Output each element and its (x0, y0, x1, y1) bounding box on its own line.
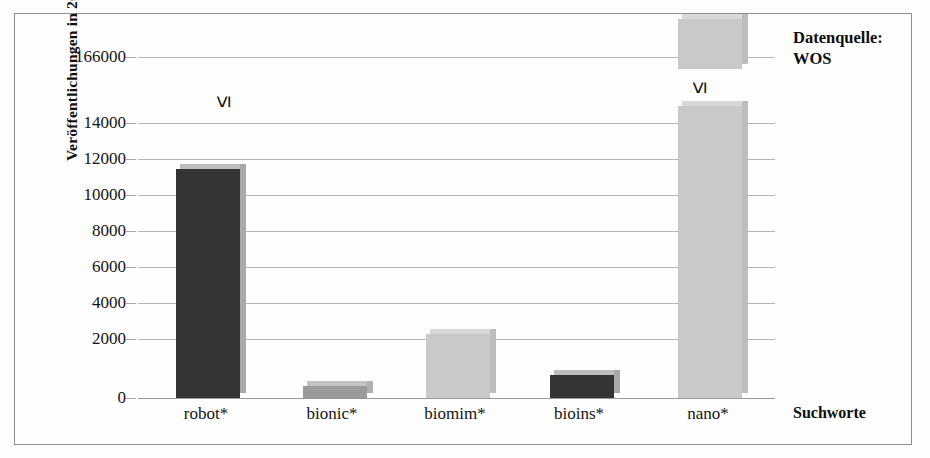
x-axis-title: Suchworte (793, 404, 866, 422)
bar-robot (176, 169, 240, 398)
tick-0 (126, 398, 136, 399)
bar-side-face (367, 381, 373, 393)
bar-bioins (550, 375, 614, 398)
bar-side-face (742, 101, 748, 393)
bar-front-face (678, 106, 742, 398)
tick-8000 (126, 231, 136, 232)
tick-12000 (126, 159, 136, 160)
bar-side-face (490, 329, 496, 393)
xtick-label-biomim: biomim* (395, 404, 515, 424)
bar-front-face (426, 334, 490, 398)
ytick-label-8000: 8000 (6, 222, 126, 239)
bar-nano-upper-segment (678, 19, 742, 69)
xtick-label-nano: nano* (648, 404, 768, 424)
plot-area: 166000 ≤ 14000 12000 10000 8000 6000 400… (138, 24, 775, 399)
bar-break-symbol: ≤ (686, 82, 712, 94)
ytick-label-6000: 6000 (6, 258, 126, 275)
xtick-label-robot: robot* (146, 404, 266, 424)
ytick-label-4000: 4000 (6, 294, 126, 311)
data-source-annotation: Datenquelle: WOS (793, 28, 883, 69)
ytick-label-10000: 10000 (6, 186, 126, 203)
y-axis-break-symbol: ≤ (210, 96, 236, 108)
xtick-label-bionic: bionic* (272, 404, 392, 424)
ytick-label-166000: 166000 (6, 48, 126, 65)
bar-side-face (614, 370, 620, 393)
chart-figure: Veröffentlichungen in 2018 166000 ≤ 1400… (0, 0, 930, 458)
ytick-label-0: 0 (6, 389, 126, 406)
bar-bionic (303, 386, 367, 398)
bar-biomim (426, 334, 490, 398)
xtick-label-bioins: bioins* (519, 404, 639, 424)
bar-side-face (240, 164, 246, 393)
bar-front-face (176, 169, 240, 398)
data-source-line2: WOS (793, 49, 883, 70)
bar-front-face (678, 19, 742, 69)
tick-166000 (126, 57, 136, 58)
tick-2000 (126, 339, 136, 340)
data-source-line1: Datenquelle: (793, 28, 883, 49)
tick-6000 (126, 267, 136, 268)
bar-front-face (550, 375, 614, 398)
ytick-label-14000: 14000 (6, 114, 126, 131)
tick-10000 (126, 195, 136, 196)
bar-side-face (742, 14, 748, 64)
x-axis-baseline (138, 398, 775, 399)
tick-14000 (126, 123, 136, 124)
ytick-label-2000: 2000 (6, 330, 126, 347)
ytick-label-12000: 12000 (6, 150, 126, 167)
bar-nano-lower-segment (678, 106, 742, 398)
tick-4000 (126, 303, 136, 304)
bar-front-face (303, 386, 367, 398)
